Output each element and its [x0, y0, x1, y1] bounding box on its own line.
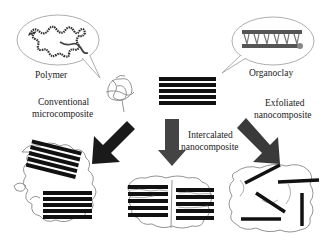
diagram-canvas — [0, 0, 334, 243]
organoclay-label: Organoclay — [249, 68, 293, 79]
arrow-to-conventional — [92, 118, 135, 164]
polymer-bubble — [17, 15, 100, 78]
exfoliated-nanocomposite-figure — [229, 164, 319, 232]
polymer-tangle-icon — [106, 75, 134, 112]
arrow-to-exfoliated — [237, 118, 280, 164]
organoclay-bubble — [222, 17, 314, 73]
intercalated-nanocomposite-figure — [128, 176, 215, 228]
conventional-microcomposite-figure — [14, 139, 96, 221]
polymer-label: Polymer — [35, 70, 67, 81]
clay-stack-icon — [159, 77, 216, 105]
